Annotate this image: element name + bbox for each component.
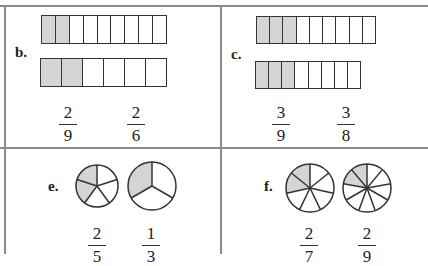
bar-cell-shaded [269,62,282,88]
bar-cell [125,16,139,43]
bar-cell [111,16,125,43]
panel-label-f: f. [264,178,273,195]
panel-label-b: b. [15,44,27,61]
bar-cell-shaded [257,17,270,43]
pie-divider [300,188,310,210]
bar-cell-shaded [62,59,83,86]
bar-cell [146,59,166,86]
fraction-e-2: 1 3 [141,225,161,266]
fraction-bar-c-1 [256,16,376,44]
bar-cell [350,17,363,43]
bar-cell [309,62,322,88]
fraction-c-2: 3 8 [336,104,356,145]
fraction-c-1: 3 9 [271,104,291,145]
fraction-bar-b-2 [40,58,167,87]
pie-divider [310,188,320,210]
bar-cell [335,62,348,88]
fraction-f-1: 2 7 [299,225,319,266]
bar-cell-shaded [256,62,269,88]
bar-cell-shaded [56,16,70,43]
pie-divider [310,173,329,188]
bar-cell-shaded [41,59,62,86]
fraction-pie-e-2 [128,162,176,210]
pie-divider [152,186,173,198]
fraction-pie-f-1 [286,164,334,212]
bar-cell [336,17,349,43]
fraction-b-2: 2 6 [126,104,146,145]
fraction-pie-e-1 [76,165,118,207]
middle-divider-horizontal [0,147,428,149]
bar-cell [84,16,98,43]
bar-cell [98,16,112,43]
bar-cell-shaded [283,17,296,43]
bar-cell-shaded [270,17,283,43]
bar-cell [363,17,375,43]
pie-divider [97,180,117,186]
bar-cell [139,16,153,43]
bar-cell [297,17,310,43]
bar-cell [104,59,125,86]
fraction-pie-f-2 [343,164,391,212]
fraction-e-1: 2 5 [87,225,107,266]
bar-cell [348,62,360,88]
pie-divider [97,186,109,203]
bar-cell [322,62,335,88]
panel-label-e: e. [48,178,58,195]
pie-divider [310,188,333,193]
fraction-b-1: 2 9 [58,104,78,145]
bar-cell [153,16,166,43]
fraction-bar-c-2 [255,61,361,89]
fraction-bar-b-1 [41,15,167,44]
fraction-f-2: 2 9 [357,225,377,266]
middle-divider-vertical [220,5,222,254]
bar-cell [295,62,308,88]
bar-cell [70,16,84,43]
bar-cell [83,59,104,86]
panel-label-c: c. [231,46,241,63]
left-border [4,5,6,254]
bar-cell [310,17,323,43]
bar-cell [323,17,336,43]
bar-cell-shaded [282,62,295,88]
bar-cell [125,59,146,86]
bar-cell-shaded [42,16,56,43]
top-border [0,5,428,7]
